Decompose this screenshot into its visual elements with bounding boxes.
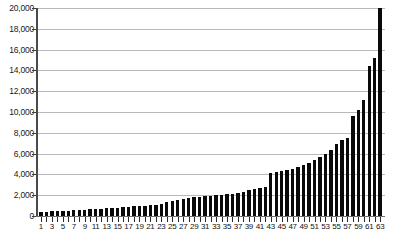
x-axis-tick-label: 61 [365, 222, 373, 231]
gridline [37, 174, 385, 175]
bar [105, 208, 108, 216]
x-axis-tick-label: 19 [135, 222, 143, 231]
plot-area [37, 8, 385, 216]
bar [296, 167, 299, 216]
gridline [37, 91, 385, 92]
bar [247, 190, 250, 216]
x-axis-tick-label: 5 [61, 222, 65, 231]
gridline [37, 70, 385, 71]
bar [203, 196, 206, 216]
x-axis-tick-label: 51 [310, 222, 318, 231]
bar [154, 205, 157, 216]
bar [302, 165, 305, 216]
bar [346, 138, 349, 216]
bar [209, 196, 212, 216]
bar [291, 169, 294, 216]
bar [378, 8, 381, 216]
bar-chart: 02,0004,0006,0008,00010,00012,00014,0001… [0, 0, 393, 240]
bar [121, 207, 124, 216]
y-axis-tick-label: 4,000 [0, 169, 34, 179]
y-axis-tick-label: 14,000 [0, 65, 34, 75]
bar [236, 193, 239, 216]
x-axis-tick-label: 9 [83, 222, 87, 231]
x-axis-tick-label: 45 [278, 222, 286, 231]
bar [149, 205, 152, 216]
bar [313, 160, 316, 216]
x-axis-tick-mark [46, 217, 47, 222]
x-axis-tick-label: 1 [39, 222, 43, 231]
bar [357, 110, 360, 216]
bar [138, 206, 141, 216]
bar [318, 157, 321, 216]
x-axis-tick-label: 47 [288, 222, 296, 231]
gridline [37, 50, 385, 51]
bar [116, 208, 119, 216]
bar [160, 204, 163, 216]
x-axis-tick-label: 27 [179, 222, 187, 231]
gridline [37, 29, 385, 30]
bar [373, 58, 376, 216]
y-axis-tick-label: 18,000 [0, 24, 34, 34]
bar [187, 198, 190, 216]
x-axis-tick-label: 59 [354, 222, 362, 231]
x-axis-tick-mark [57, 217, 58, 222]
y-axis-tick-label: 2,000 [0, 190, 34, 200]
y-axis-tick-labels: 02,0004,0006,0008,00010,00012,00014,0001… [0, 0, 34, 240]
bar [368, 66, 371, 216]
y-axis-tick-label: 12,000 [0, 86, 34, 96]
x-axis-tick-label: 25 [168, 222, 176, 231]
x-axis-tick-label: 55 [332, 222, 340, 231]
bar [253, 189, 256, 216]
bar [127, 207, 130, 216]
bar [132, 206, 135, 216]
gridline [37, 133, 385, 134]
bar [329, 150, 332, 216]
bar [176, 200, 179, 216]
y-axis-tick-label: 6,000 [0, 149, 34, 159]
x-axis-tick-label: 23 [157, 222, 165, 231]
x-axis-tick-label: 37 [234, 222, 242, 231]
x-axis-tick-label: 63 [376, 222, 384, 231]
bar [220, 195, 223, 216]
bar [192, 197, 195, 216]
bar [182, 199, 185, 216]
bar [335, 144, 338, 216]
x-axis-tick-label: 11 [92, 222, 100, 231]
bar [165, 202, 168, 216]
bar [269, 173, 272, 216]
bar [88, 209, 91, 216]
bar [214, 195, 217, 216]
gridline [37, 8, 385, 9]
x-axis-tick-label: 35 [223, 222, 231, 231]
x-axis-tick-label: 13 [102, 222, 110, 231]
bar [231, 194, 234, 216]
x-axis-tick-label: 29 [190, 222, 198, 231]
x-axis-tick-label: 39 [245, 222, 253, 231]
x-axis-tick-label: 43 [267, 222, 275, 231]
x-axis-tick-label: 41 [256, 222, 264, 231]
y-axis-line [36, 8, 38, 217]
y-axis-tick-label: 20,000 [0, 3, 34, 13]
bar [198, 197, 201, 216]
bar [264, 187, 267, 216]
gridline [37, 112, 385, 113]
bar [307, 163, 310, 216]
x-axis-tick-label: 7 [72, 222, 76, 231]
y-axis-tick-label: 16,000 [0, 45, 34, 55]
bar [285, 170, 288, 216]
bar [258, 188, 261, 216]
bar [275, 172, 278, 216]
bar [143, 206, 146, 216]
bar [225, 194, 228, 216]
bar [242, 192, 245, 216]
y-axis-tick-label: 10,000 [0, 107, 34, 117]
x-axis-tick-mark [68, 217, 69, 222]
x-axis-tick-label: 31 [201, 222, 209, 231]
bar [340, 140, 343, 216]
bar [171, 201, 174, 216]
bar [324, 154, 327, 216]
x-axis-tick-label: 49 [299, 222, 307, 231]
gridline [37, 154, 385, 155]
bar [351, 116, 354, 216]
x-axis-tick-label: 15 [113, 222, 121, 231]
